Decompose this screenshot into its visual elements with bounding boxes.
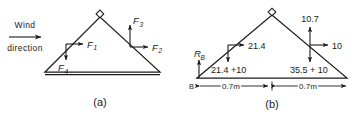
load-leeward-uplift-label: 10.7 xyxy=(301,14,319,24)
force-f4-subscript: 4 xyxy=(65,68,69,75)
load-windward-horizontal-label: 21.4 xyxy=(248,41,266,51)
panel-b-group: R B 21.4 21.4 +10 10.7 10 35.5 + 10 B 0.… xyxy=(189,8,347,110)
panel-a-group: Wind direction F 1 F 4 F 3 F 2 (a) xyxy=(7,10,162,108)
caption-panel-a: (a) xyxy=(93,96,106,108)
load-windward-vertical-label: 21.4 +10 xyxy=(211,65,246,75)
dimension-label-left: 0.7m xyxy=(222,82,240,91)
reaction-rb-subscript: B xyxy=(201,54,206,61)
force-f3-subscript: 3 xyxy=(140,21,144,28)
support-node-label-b: B xyxy=(189,82,194,91)
force-f1-subscript: 1 xyxy=(94,44,98,51)
figure-canvas: Wind direction F 1 F 4 F 3 F 2 (a) xyxy=(0,0,355,117)
wind-label-line1: Wind xyxy=(15,20,36,30)
force-f2-subscript: 2 xyxy=(158,47,163,54)
apex-joint-marker-b xyxy=(268,8,276,16)
load-leeward-horizontal-label: 10 xyxy=(332,41,342,51)
apex-joint-marker-a xyxy=(96,10,104,18)
load-leeward-vertical-label: 35.5 + 10 xyxy=(290,65,328,75)
dimension-label-right: 0.7m xyxy=(299,82,317,91)
engineering-figure: Wind direction F 1 F 4 F 3 F 2 (a) xyxy=(0,0,355,117)
wind-label-line2: direction xyxy=(7,43,43,53)
caption-panel-b: (b) xyxy=(265,98,278,110)
